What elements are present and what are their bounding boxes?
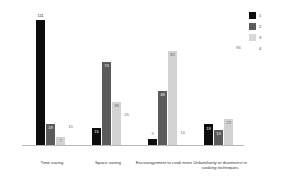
- x-axis-tick-label-0: Time saving: [22, 160, 82, 165]
- bar-value-label: 7: [59, 138, 61, 143]
- bar-series-2[interactable]: [158, 91, 167, 145]
- bar-series-3[interactable]: [168, 51, 177, 145]
- legend-label: 1: [259, 13, 261, 18]
- bar-value-label: 15: [68, 124, 72, 129]
- legend-label: 3: [259, 35, 261, 40]
- bar-series-3[interactable]: [112, 102, 121, 145]
- legend-swatch-icon: [249, 12, 256, 19]
- bar-value-label: 74: [104, 63, 108, 68]
- bar-slot: 38: [112, 10, 121, 145]
- bar-slot: 15: [92, 10, 101, 145]
- bar-slot: 48: [158, 10, 167, 145]
- bar-slot: 84: [168, 10, 177, 145]
- legend-label: 2: [259, 24, 261, 29]
- legend-item-series-4[interactable]: 4: [249, 43, 281, 54]
- legend-swatch-icon: [249, 23, 256, 30]
- bar-slot: 15: [66, 10, 75, 145]
- bar-value-label: 19: [206, 126, 210, 131]
- bar-slot: 13: [214, 10, 223, 145]
- bar-series-1[interactable]: [148, 139, 157, 145]
- bar-slot: 86: [234, 10, 243, 145]
- bar-value-label: 23: [226, 120, 230, 125]
- bar-series-2[interactable]: [102, 62, 111, 145]
- bar-value-label: 84: [170, 52, 174, 57]
- bar-value-label: 13: [216, 131, 220, 136]
- legend-swatch-icon: [249, 34, 256, 41]
- bar-slot: 19: [204, 10, 213, 145]
- bar-value-label: 86: [236, 45, 240, 50]
- bar-value-label: 25: [124, 112, 128, 117]
- legend: 1 2 3 4: [249, 10, 281, 54]
- bar-slot: 25: [122, 10, 131, 145]
- bar-slot: 74: [102, 10, 111, 145]
- bar-value-label: 48: [160, 92, 164, 97]
- legend-item-series-3[interactable]: 3: [249, 32, 281, 43]
- bar-chart: 111 19 7 15 15: [0, 0, 285, 178]
- bar-value-label: 111: [37, 13, 43, 18]
- x-axis-tick-label-3: Unfamiliarity or disinterest in cooking …: [190, 160, 250, 171]
- bar-slot: 23: [224, 10, 233, 145]
- bar-series-1[interactable]: [36, 20, 45, 145]
- bar-value-label: 15: [94, 129, 98, 134]
- x-axis-tick-label-2: Encouragement to cook more: [134, 160, 194, 165]
- bar-slot: 7: [56, 10, 65, 145]
- legend-item-series-2[interactable]: 2: [249, 21, 281, 32]
- bar-slot: 19: [46, 10, 55, 145]
- bar-value-label: 5: [151, 131, 153, 136]
- legend-label: 4: [259, 46, 261, 51]
- bar-value-label: 38: [114, 103, 118, 108]
- bar-value-label: 19: [48, 125, 52, 130]
- bar-slot: 5: [148, 10, 157, 145]
- x-axis-tick-label-1: Space saving: [78, 160, 138, 165]
- plot-area: 111 19 7 15 15: [22, 10, 244, 146]
- legend-swatch-icon: [249, 45, 256, 52]
- legend-item-series-1[interactable]: 1: [249, 10, 281, 21]
- bar-slot: 14: [178, 10, 187, 145]
- x-axis-line: [22, 145, 244, 146]
- bar-value-label: 14: [180, 130, 184, 135]
- bar-slot: 111: [36, 10, 45, 145]
